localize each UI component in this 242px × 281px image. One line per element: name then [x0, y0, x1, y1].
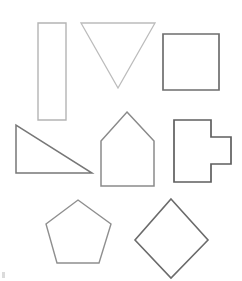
shape-rectangle: [38, 23, 66, 120]
shape-worksheet: [0, 0, 242, 281]
shape-square: [163, 34, 219, 90]
shape-canvas: [0, 0, 242, 281]
corner-speck-artifact: [2, 272, 5, 278]
